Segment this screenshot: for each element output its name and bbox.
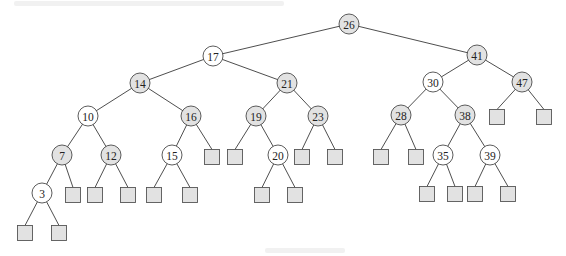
tree-node-28: 28: [391, 105, 411, 125]
nil-leaf-square: [147, 188, 162, 203]
node-key: 15: [166, 150, 178, 162]
tree-node-15: 15: [162, 145, 182, 165]
tree-node-14: 14: [130, 73, 150, 93]
nil-leaf-square: [88, 188, 103, 203]
tree-node-16: 16: [181, 106, 201, 126]
nil-leaf-square: [205, 150, 220, 165]
nil-leaf-square: [228, 150, 243, 165]
tree-node-47: 47: [512, 72, 532, 92]
nil-leaf-square: [52, 226, 67, 241]
tree-node-41: 41: [467, 45, 487, 65]
node-key: 39: [484, 150, 496, 162]
nil-leaf-square: [537, 110, 552, 125]
nil-leaf-square: [328, 150, 343, 165]
node-key: 10: [82, 111, 94, 123]
nil-leaf-square: [288, 188, 303, 203]
node-key: 38: [459, 110, 471, 122]
nil-leaf-square: [420, 187, 435, 202]
tree-edge: [213, 56, 287, 83]
node-key: 21: [281, 78, 293, 90]
node-key: 30: [427, 77, 439, 89]
nil-leaf-square: [121, 188, 136, 203]
tree-node-39: 39: [480, 145, 500, 165]
node-key: 17: [207, 51, 219, 63]
tree-node-26: 26: [339, 14, 359, 34]
nil-leaf-square: [409, 150, 424, 165]
node-key: 23: [312, 111, 324, 123]
tree-node-20: 20: [268, 145, 288, 165]
node-key: 26: [343, 19, 355, 31]
tree-edge: [140, 56, 213, 83]
nil-leaves: [18, 110, 552, 241]
nil-leaf-square: [490, 110, 505, 125]
node-key: 28: [395, 110, 407, 122]
tree-node-30: 30: [423, 72, 443, 92]
node-key: 19: [250, 111, 262, 123]
tree-node-3: 3: [32, 183, 52, 203]
tree-node-10: 10: [78, 106, 98, 126]
tree-node-7: 7: [52, 145, 72, 165]
tree-node-38: 38: [455, 105, 475, 125]
tree-node-19: 19: [246, 106, 266, 126]
nil-leaf-square: [255, 188, 270, 203]
tree-node-21: 21: [277, 73, 297, 93]
tree-node-35: 35: [433, 145, 453, 165]
nil-leaf-square: [501, 187, 516, 202]
red-black-tree-diagram: 26174114213047101619232838712152035393: [0, 0, 566, 256]
node-key: 20: [272, 150, 284, 162]
node-key: 47: [516, 77, 528, 89]
node-key: 16: [185, 111, 197, 123]
node-key: 3: [39, 188, 45, 200]
node-key: 12: [105, 150, 117, 162]
node-key: 41: [471, 50, 483, 62]
tree-node-23: 23: [308, 106, 328, 126]
node-key: 14: [134, 78, 146, 90]
nil-leaf-square: [18, 226, 33, 241]
nil-leaf-square: [66, 188, 81, 203]
tree-nodes: 26174114213047101619232838712152035393: [32, 14, 532, 203]
nil-leaf-square: [468, 187, 483, 202]
node-key: 35: [437, 150, 449, 162]
tree-edge: [349, 24, 477, 55]
tree-edge: [213, 24, 349, 56]
tree-edges: [42, 24, 522, 193]
nil-leaf-square: [183, 188, 198, 203]
tree-node-12: 12: [101, 145, 121, 165]
nil-leaf-square: [448, 187, 463, 202]
nil-leaf-square: [295, 150, 310, 165]
node-key: 7: [59, 150, 65, 162]
tree-node-17: 17: [203, 46, 223, 66]
nil-leaf-square: [374, 150, 389, 165]
